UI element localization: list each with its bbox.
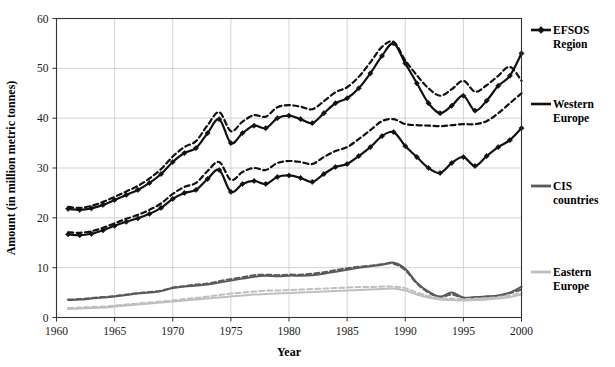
legend-entry-2: CIScountries [531, 180, 599, 206]
x-tick-label: 1985 [336, 325, 359, 337]
x-tick-label: 1960 [45, 325, 68, 337]
legend-label-line1: CIS [553, 180, 572, 192]
y-tick-label: 60 [37, 13, 49, 25]
chart-legend: EFSOSRegionWesternEuropeCIScountriesEast… [531, 24, 599, 293]
x-tick-label: 2000 [510, 325, 533, 337]
x-tick-label: 1970 [161, 325, 184, 337]
x-tick-label: 1965 [103, 325, 126, 337]
legend-entry-0: EFSOSRegion [531, 24, 589, 51]
x-axis-title: Year [277, 345, 302, 359]
legend-label-line2: Region [553, 38, 588, 51]
chart-figure: 196019651970197519801985199019952000 010… [0, 0, 615, 367]
y-tick-label: 10 [37, 262, 49, 274]
data-point-marker [286, 113, 291, 118]
y-axis-title: Amount (in million metric tonnes) [4, 81, 18, 256]
y-tick-label: 50 [37, 62, 49, 74]
legend-label-line1: Eastern [553, 266, 592, 278]
legend-label-line2: Europe [553, 280, 589, 293]
y-axis-tick-labels: 0102030405060 [37, 13, 49, 324]
legend-label-line1: EFSOS [553, 24, 589, 36]
line-chart: 196019651970197519801985199019952000 010… [0, 0, 615, 367]
legend-entry-3: EasternEurope [531, 266, 592, 293]
data-point-marker [286, 173, 291, 178]
legend-entry-1: WesternEurope [531, 98, 594, 125]
x-tick-label: 1975 [219, 325, 242, 337]
x-axis-tick-labels: 196019651970197519801985199019952000 [45, 325, 533, 337]
data-point-marker [438, 111, 443, 116]
series-line-5 [68, 263, 521, 299]
legend-label-line2: Europe [553, 112, 589, 125]
data-series-layer [66, 41, 525, 309]
data-point-marker [252, 178, 257, 183]
x-tick-label: 1990 [394, 325, 417, 337]
y-tick-label: 40 [37, 112, 49, 124]
legend-label-line2: countries [553, 194, 599, 206]
x-tick-label: 1980 [278, 325, 301, 337]
y-tick-label: 20 [37, 212, 49, 224]
y-tick-label: 0 [43, 312, 49, 324]
x-tick-label: 1995 [452, 325, 475, 337]
legend-swatch-marker [538, 27, 545, 34]
grid-lines [57, 19, 522, 318]
y-tick-label: 30 [37, 162, 49, 174]
legend-label-line1: Western [553, 98, 594, 110]
